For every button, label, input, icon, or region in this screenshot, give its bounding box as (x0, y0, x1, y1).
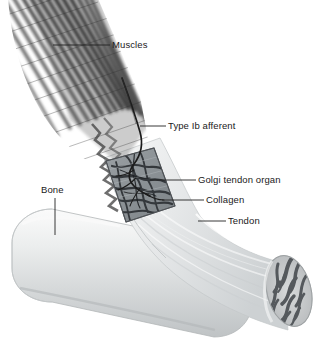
label-bone: Bone (41, 185, 64, 195)
label-muscles: Muscles (112, 40, 148, 50)
label-golgi-tendon-organ: Golgi tendon organ (198, 175, 281, 185)
label-tendon: Tendon (228, 216, 260, 226)
label-collagen: Collagen (206, 195, 244, 205)
label-type-ib-afferent: Type Ib afferent (168, 121, 235, 131)
anatomy-figure: Muscles Type Ib afferent Golgi tendon or… (0, 0, 323, 355)
